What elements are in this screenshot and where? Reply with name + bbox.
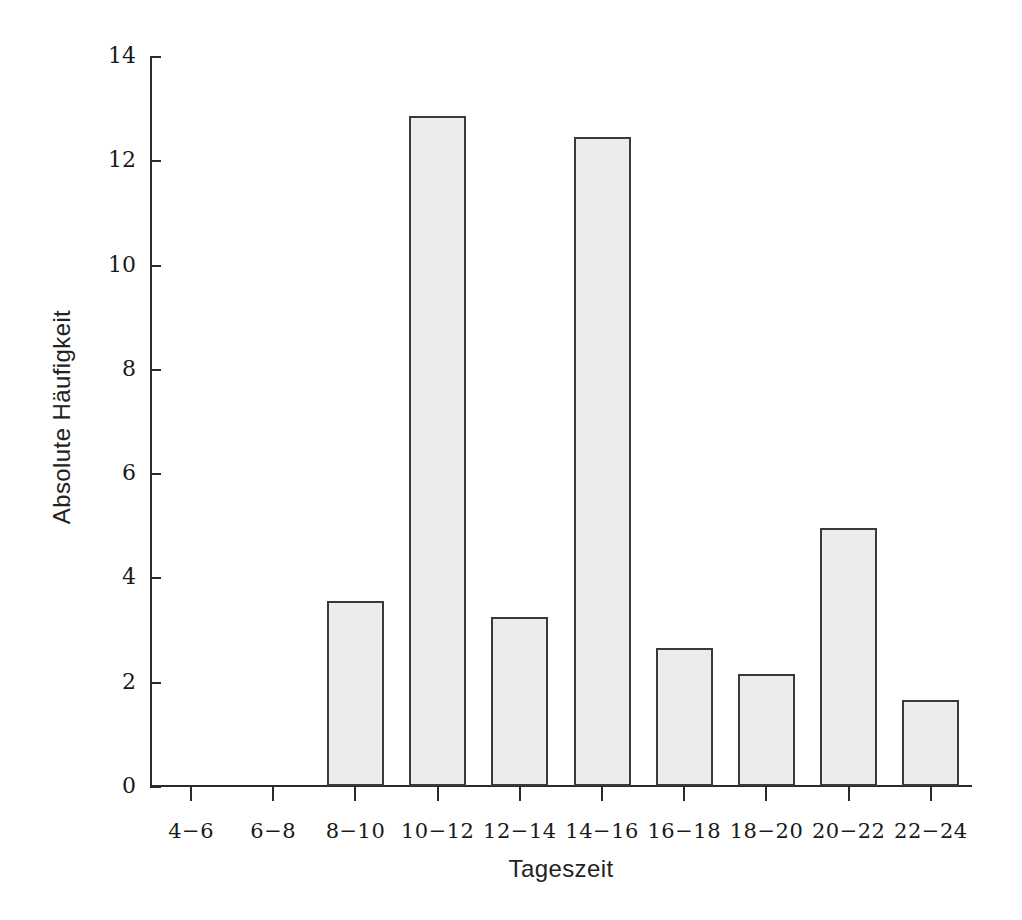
plot-area: 02468101214 4−66−88−1010−1212−1414−1616−… xyxy=(150,57,972,787)
x-tick-mark xyxy=(683,787,685,801)
y-tick-label: 10 xyxy=(76,252,136,278)
x-tick-label: 16−18 xyxy=(648,819,722,843)
y-tick-label: 6 xyxy=(76,460,136,486)
bar xyxy=(738,674,795,786)
y-tick-label: 12 xyxy=(76,147,136,173)
bar xyxy=(656,648,713,786)
x-tick-mark xyxy=(601,787,603,801)
x-category: 14−16 xyxy=(561,57,643,787)
x-category: 22−24 xyxy=(890,57,972,787)
y-tick-label: 2 xyxy=(76,669,136,695)
bar xyxy=(409,116,466,786)
x-tick-mark xyxy=(190,787,192,801)
x-category: 20−22 xyxy=(808,57,890,787)
x-axis-title: Tageszeit xyxy=(150,855,972,883)
y-tick-label: 14 xyxy=(76,43,136,69)
x-category: 16−18 xyxy=(643,57,725,787)
x-category: 18−20 xyxy=(725,57,807,787)
bar xyxy=(491,617,548,786)
x-tick-mark xyxy=(930,787,932,801)
x-tick-mark xyxy=(437,787,439,801)
bar xyxy=(820,528,877,786)
x-category: 10−12 xyxy=(397,57,479,787)
x-category: 4−6 xyxy=(150,57,232,787)
x-category: 6−8 xyxy=(232,57,314,787)
bar xyxy=(327,601,384,786)
x-tick-mark xyxy=(354,787,356,801)
x-tick-label: 14−16 xyxy=(565,819,639,843)
x-tick-label: 10−12 xyxy=(401,819,475,843)
y-tick-label: 0 xyxy=(76,773,136,799)
x-tick-mark xyxy=(765,787,767,801)
x-tick-label: 22−24 xyxy=(894,819,968,843)
y-tick-label: 8 xyxy=(76,356,136,382)
x-category: 12−14 xyxy=(479,57,561,787)
x-tick-mark xyxy=(272,787,274,801)
bar xyxy=(574,137,631,786)
x-tick-label: 18−20 xyxy=(730,819,804,843)
x-tick-label: 12−14 xyxy=(483,819,557,843)
x-tick-mark xyxy=(519,787,521,801)
x-tick-label: 6−8 xyxy=(250,819,296,843)
y-tick-label: 4 xyxy=(76,564,136,590)
bar-chart: Absolute Häufigkeit 02468101214 4−66−88−… xyxy=(0,0,1022,920)
x-category: 8−10 xyxy=(314,57,396,787)
bar xyxy=(902,700,959,786)
x-tick-label: 20−22 xyxy=(812,819,886,843)
x-tick-label: 8−10 xyxy=(326,819,386,843)
x-tick-label: 4−6 xyxy=(168,819,214,843)
x-tick-mark xyxy=(848,787,850,801)
